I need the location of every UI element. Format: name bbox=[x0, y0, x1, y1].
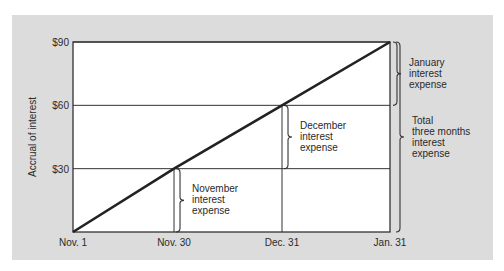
annotation-line: January bbox=[409, 57, 445, 68]
chart: $30$60$90 Nov. 1Nov. 30Dec. 31Jan. 31 No… bbox=[0, 0, 504, 271]
y-tick-labels: $30$60$90 bbox=[52, 37, 69, 175]
annotation-line: November bbox=[192, 183, 239, 194]
total-label: Totalthree monthsinterestexpense bbox=[412, 115, 470, 159]
x-tick-label: Nov. 30 bbox=[157, 237, 191, 248]
annotation-line: interest bbox=[192, 194, 225, 205]
january-label: Januaryinterestexpense bbox=[409, 57, 447, 90]
annotation-line: December bbox=[300, 120, 347, 131]
x-tick-label: Nov. 1 bbox=[59, 237, 88, 248]
y-axis-title: Accrual of interest bbox=[27, 97, 38, 177]
annotation-line: interest bbox=[412, 137, 445, 148]
annotation-line: expense bbox=[300, 142, 338, 153]
annotation-line: Total bbox=[412, 115, 433, 126]
x-tick-labels: Nov. 1Nov. 30Dec. 31Jan. 31 bbox=[59, 237, 407, 248]
annotation-line: three months bbox=[412, 126, 470, 137]
annotation-line: interest bbox=[409, 68, 442, 79]
y-tick-label: $30 bbox=[52, 164, 69, 175]
annotation-line: expense bbox=[192, 205, 230, 216]
x-tick-label: Jan. 31 bbox=[374, 237, 407, 248]
annotation-line: interest bbox=[300, 131, 333, 142]
annotation-line: expense bbox=[409, 79, 447, 90]
y-tick-label: $60 bbox=[52, 100, 69, 111]
annotation-line: expense bbox=[412, 148, 450, 159]
y-tick-label: $90 bbox=[52, 37, 69, 48]
x-tick-label: Dec. 31 bbox=[265, 237, 300, 248]
